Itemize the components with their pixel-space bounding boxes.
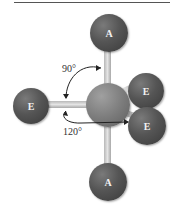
angle-label-90: 90° [62,63,76,74]
angle-arrows [0,0,181,213]
angle-label-120: 120° [63,126,82,137]
